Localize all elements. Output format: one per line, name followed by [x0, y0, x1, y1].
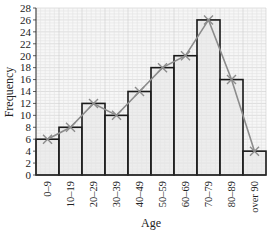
histogram-bar: [59, 127, 82, 175]
y-tick-label: 26: [20, 14, 32, 26]
y-tick-label: 28: [20, 2, 32, 14]
y-tick-label: 10: [20, 109, 32, 121]
y-tick-label: 22: [20, 38, 31, 50]
x-category-label: 20–29: [88, 181, 99, 207]
histogram-bar: [105, 115, 128, 175]
histogram-bar: [36, 139, 59, 175]
x-category-label: 10–19: [65, 181, 76, 207]
x-category-label: 50–59: [157, 181, 168, 207]
histogram-bar: [128, 92, 151, 176]
x-axis-title: Age: [141, 216, 161, 230]
x-category-label: 0–9: [42, 181, 53, 197]
x-category-label: over 90: [249, 181, 260, 213]
histogram-bar: [151, 68, 174, 175]
histogram-bar: [174, 56, 197, 175]
y-axis-title: Frequency: [2, 67, 16, 118]
y-tick-label: 0: [26, 169, 32, 181]
x-category-label: 40–49: [134, 181, 145, 207]
y-tick-label: 2: [26, 157, 32, 169]
y-tick-label: 16: [20, 73, 32, 85]
x-category-label: 70–79: [203, 181, 214, 207]
y-tick-label: 4: [26, 145, 32, 157]
y-tick-labels: 0246810121416182022242628: [20, 2, 32, 181]
y-tick-label: 24: [20, 26, 32, 38]
y-tick-label: 8: [26, 121, 32, 133]
histogram-bar: [220, 80, 243, 175]
x-category-label: 30–39: [111, 181, 122, 207]
y-tick-label: 20: [20, 50, 32, 62]
histogram-bar: [82, 103, 105, 175]
y-tick-label: 14: [20, 85, 32, 97]
x-category-label: 60–69: [180, 181, 191, 207]
y-tick-label: 18: [20, 61, 32, 73]
y-tick-label: 12: [20, 97, 31, 109]
x-category-label: 80–89: [226, 181, 237, 207]
histogram-bar: [243, 151, 266, 175]
frequency-histogram-chart: 0246810121416182022242628 0–910–1920–293…: [0, 0, 272, 233]
y-tick-label: 6: [26, 133, 32, 145]
histogram-bar: [197, 20, 220, 175]
x-tick-labels: 0–910–1920–2930–3940–4950–5960–6970–7980…: [42, 181, 260, 213]
